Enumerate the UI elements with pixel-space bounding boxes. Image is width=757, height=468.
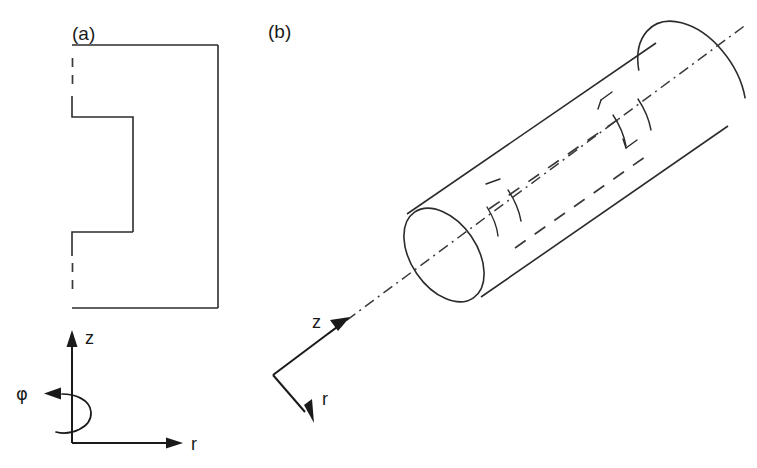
cylinder-far-end-cap	[623, 1, 753, 139]
cavity-shoulder-tick-upper-a	[601, 92, 612, 100]
figure-canvas: (a)	[0, 0, 757, 468]
phi-axis-label: φ	[16, 383, 28, 404]
cross-section-notch-lower	[72, 232, 133, 256]
cylinder-body	[387, 1, 752, 316]
cavity-near-end-arc-upper	[487, 207, 498, 236]
cross-section-notch-upper	[72, 96, 133, 232]
z-axis-arrowhead	[67, 330, 78, 347]
cavity-mid-feature-mark	[486, 179, 500, 184]
cylinder-internal-cavity	[486, 92, 651, 248]
panel-a-coordinate-system: z r φ	[16, 328, 197, 454]
panel-a-cross-section-outline	[72, 45, 218, 308]
cavity-far-end-arc-lower	[638, 99, 651, 130]
cavity-lower-wall	[515, 157, 645, 248]
phi-rotation-arrowhead	[44, 388, 61, 400]
r-axis-arrowhead	[166, 438, 183, 449]
cylinder-axis-of-revolution	[328, 24, 747, 334]
cylinder-upper-silhouette	[407, 43, 656, 214]
panel-b-z-axis-line	[273, 327, 337, 375]
panel-b-r-axis-line	[273, 375, 305, 412]
cavity-shoulder-tick-upper-b	[598, 100, 601, 109]
panel-b-coordinate-system: z r	[273, 312, 350, 423]
panel-b-group: (b)	[268, 1, 752, 423]
panel-b-r-axis-arrowhead	[304, 399, 314, 423]
phi-rotation-spiral	[56, 394, 91, 433]
panel-a-label: (a)	[72, 23, 95, 44]
r-axis-label: r	[191, 434, 197, 454]
panel-b-r-axis-label: r	[322, 389, 328, 409]
panel-b-label: (b)	[268, 21, 291, 42]
cylinder-near-end-face	[387, 193, 500, 316]
cavity-shoulder-tick-lower-a	[626, 140, 637, 148]
panel-b-z-axis-label: z	[312, 312, 321, 332]
panel-a-group: (a)	[16, 23, 218, 454]
figure-root: (a)	[0, 0, 757, 468]
z-axis-label: z	[85, 328, 94, 348]
